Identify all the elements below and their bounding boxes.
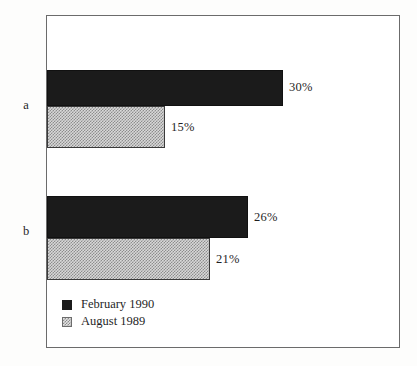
bar-value-b-august-1989: 21% <box>216 252 240 267</box>
bar-a-february-1990 <box>47 70 283 106</box>
bar-b-february-1990 <box>47 196 248 238</box>
bar-a-august-1989 <box>47 106 165 148</box>
legend-label-august-1989: August 1989 <box>81 314 145 329</box>
legend-swatch-hatched-gray-icon <box>62 317 72 327</box>
legend-label-february-1990: February 1990 <box>81 297 154 312</box>
bar-value-b-february-1990: 26% <box>254 210 278 225</box>
legend-swatch-solid-black-icon <box>62 300 72 310</box>
legend-item-february-1990: February 1990 <box>62 297 154 312</box>
category-label-b: b <box>16 224 36 239</box>
bar-value-a-august-1989: 15% <box>171 120 195 135</box>
chart-legend: February 1990 August 1989 <box>62 297 154 331</box>
legend-item-august-1989: August 1989 <box>62 314 154 329</box>
bar-b-august-1989 <box>47 238 210 280</box>
bar-value-a-february-1990: 30% <box>289 80 313 95</box>
category-label-a: a <box>16 98 36 113</box>
